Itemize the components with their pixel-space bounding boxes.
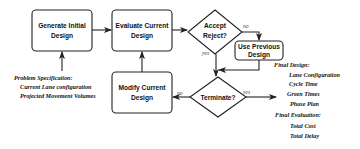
node-evaluate-current-design: Evaluate Current Design [112,10,172,51]
final-design-title: Final Design: [274,61,310,68]
final-evaluation-item: Total Delay [290,132,319,139]
node-accept-reject-decision: Accept Reject? [188,10,242,54]
final-design-item: Phase Plan [290,100,320,107]
problem-specification-note: Problem Specification: Current Lane conf… [14,74,96,99]
node-use-previous-design: Use Previous Design [235,41,283,60]
node-label: Generate Initial [38,22,86,29]
final-evaluation-note: Final Evaluation: Total Cost Total Delay [275,111,321,139]
edge-accept-no-to-use-previous [242,32,259,40]
node-label: Terminate? [200,94,235,101]
final-evaluation-title: Final Evaluation: [275,111,321,118]
edge-label-accept-yes: yes [201,50,209,56]
problem-spec-item: Projected Movement Volumes [20,92,96,99]
node-label: Design [248,51,270,59]
edge-label-terminate-no: no [177,90,183,96]
final-design-item: Cycle Time [289,80,318,87]
node-label: Accept [204,22,227,30]
problem-spec-title: Problem Specification: [14,74,73,81]
problem-spec-item: Current Lane configuration [20,83,92,90]
final-design-note: Final Design: Lane Configuration Cycle T… [274,61,341,107]
node-label: Design [51,32,73,40]
edge-label-accept-no: no [243,23,249,29]
node-terminate-decision: Terminate? [190,77,246,117]
final-design-item: Lane Configuration [288,71,341,78]
node-modify-current-design: Modify Current Design [112,72,172,113]
flowchart: Generate Initial Design Evaluate Current… [0,0,360,149]
node-label: Use Previous [238,43,280,50]
edge-use-previous-to-terminate [219,60,259,70]
node-label: Modify Current [119,84,167,92]
node-label: Design [131,32,153,40]
node-label: Design [131,94,153,102]
final-design-item: Green Times [287,90,320,97]
node-generate-initial-design: Generate Initial Design [32,10,92,51]
node-label: Reject? [203,32,227,40]
edge-label-terminate-yes: yes [242,89,250,95]
node-label: Evaluate Current [116,22,170,29]
final-evaluation-item: Total Cost [290,122,316,129]
